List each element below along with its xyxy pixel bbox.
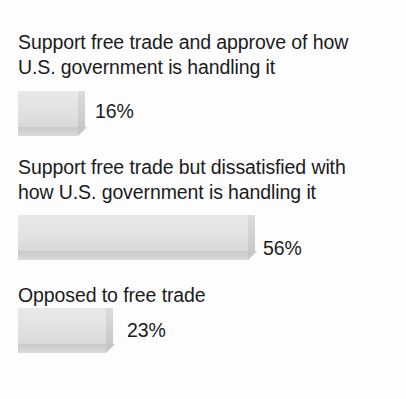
- bar-1-body: [18, 91, 85, 127]
- bar-2-corner-bevel: [248, 251, 257, 260]
- bar-3-corner-bevel: [106, 344, 115, 353]
- bar-3-value-label: 23%: [127, 319, 166, 341]
- bar-1-corner-bevel: [78, 127, 87, 136]
- category-label: Support free trade and approve of how U.…: [18, 30, 392, 80]
- bar-2-value-label: 56%: [263, 237, 302, 259]
- bar-1-value-label: 16%: [95, 100, 134, 122]
- bar-3-shadow: [18, 344, 106, 353]
- category-label: Opposed to free trade: [18, 283, 392, 308]
- bar-1-side-face: [78, 91, 85, 127]
- bar-chart: Support free trade and approve of how U.…: [0, 0, 406, 399]
- bar-2-shadow: [18, 251, 248, 260]
- bar-3-side-face: [106, 308, 113, 344]
- bar-2-body: [18, 215, 255, 251]
- category-label: Support free trade but dissatisfied with…: [18, 155, 392, 205]
- bar-2-side-face: [248, 215, 255, 251]
- bar-1-shadow: [18, 127, 78, 136]
- bar-3-body: [18, 308, 113, 344]
